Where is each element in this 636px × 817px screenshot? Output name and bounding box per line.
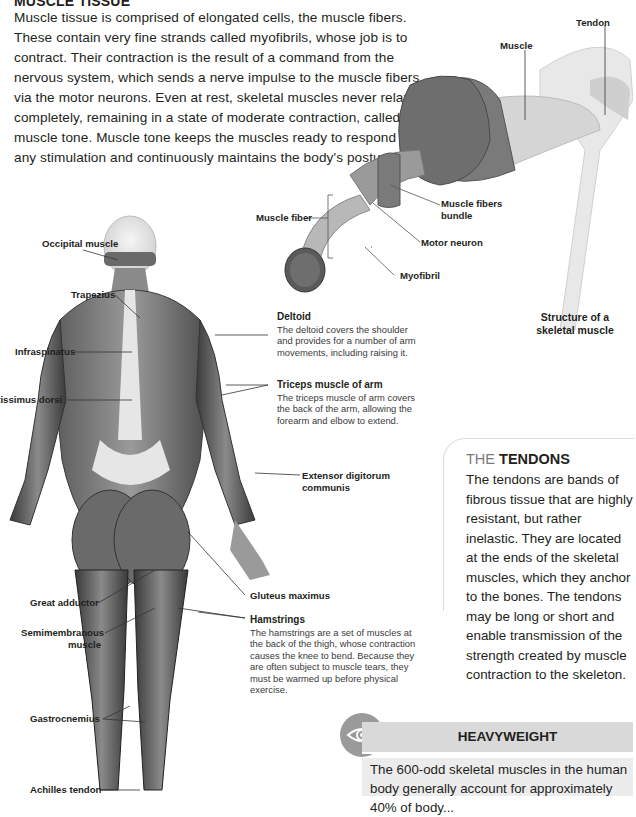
tendons-title: THE TENDONS xyxy=(466,451,570,467)
label-tendon: Tendon xyxy=(576,17,610,29)
label-motor-neuron: Motor neuron xyxy=(421,237,483,249)
tendons-title-bold: TENDONS xyxy=(499,451,570,467)
label-occipital-muscle: Occipital muscle xyxy=(42,238,118,250)
hamstrings-text: The hamstrings are a set of muscles at t… xyxy=(250,627,415,696)
label-semimembranous-line2: muscle xyxy=(68,639,101,650)
label-muscle-fibers-line2: bundle xyxy=(441,210,472,221)
deltoid-title: Deltoid xyxy=(277,311,417,323)
label-gluteus-maximus: Gluteus maximus xyxy=(250,590,330,602)
label-latissimus-dorsi: Latissimus dorsi xyxy=(0,394,62,406)
triceps-description: Triceps muscle of arm The triceps muscle… xyxy=(277,379,422,426)
label-great-adductor: Great adductor xyxy=(30,597,99,609)
label-trapezius: Trapezius xyxy=(71,289,115,301)
caption-line2: skeletal muscle xyxy=(536,324,614,336)
hamstrings-title: Hamstrings xyxy=(250,614,420,626)
label-semimembranous-line1: Semimembranous xyxy=(21,627,104,638)
tendons-body: The tendons are bands of fibrous tissue … xyxy=(466,470,636,685)
label-muscle-fibers-bundle: Muscle fibers bundle xyxy=(441,198,502,222)
label-semimembranous-muscle: Semimembranous muscle xyxy=(21,627,101,651)
deltoid-text: The deltoid covers the shoulder and prov… xyxy=(277,324,416,358)
heavyweight-title: HEAVYWEIGHT xyxy=(362,722,633,752)
tendons-title-prefix: THE xyxy=(466,451,499,467)
label-muscle-fibers-line1: Muscle fibers xyxy=(441,198,502,209)
label-muscle-fiber: Muscle fiber xyxy=(256,212,312,224)
triceps-title: Triceps muscle of arm xyxy=(277,379,422,391)
label-gastrocnemius: Gastrocnemius xyxy=(30,713,100,725)
label-extensor-line2: communis xyxy=(302,482,350,493)
structure-caption: Structure of a skeletal muscle xyxy=(530,311,620,337)
label-achilles-tendon: Achilles tendon xyxy=(30,784,101,796)
hamstrings-description: Hamstrings The hamstrings are a set of m… xyxy=(250,614,420,696)
deltoid-description: Deltoid The deltoid covers the shoulder … xyxy=(277,311,417,358)
label-myofibril: Myofibril xyxy=(400,270,440,282)
label-extensor-line1: Extensor digitorum xyxy=(302,470,390,481)
label-infraspinatus: Infraspinatus xyxy=(15,346,75,358)
triceps-text: The triceps muscle of arm covers the bac… xyxy=(277,392,415,426)
heavyweight-body: The 600-odd skeletal muscles in the huma… xyxy=(370,760,632,817)
human-back-figure xyxy=(10,216,300,790)
skeletal-muscle-diagram xyxy=(285,25,633,330)
caption-line1: Structure of a xyxy=(541,311,609,323)
label-extensor-digitorum: Extensor digitorum communis xyxy=(302,470,390,494)
label-muscle: Muscle xyxy=(500,40,533,52)
